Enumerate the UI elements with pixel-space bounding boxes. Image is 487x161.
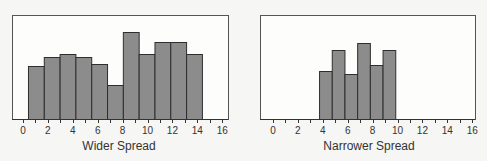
x-tick-label: 14 [192, 125, 204, 136]
x-tick-label: 0 [270, 125, 276, 136]
histogram-bar [123, 33, 139, 120]
x-tick-label: 14 [442, 125, 454, 136]
x-tick-label: 8 [370, 125, 376, 136]
histogram-bar [332, 51, 345, 120]
x-tick-label: 4 [320, 125, 326, 136]
x-tick-label: 8 [120, 125, 126, 136]
histogram-bar [171, 43, 187, 120]
narrower-spread-histogram: 0246810121416Narrower Spread [260, 16, 478, 154]
histogram-comparison-figure: 0246810121416Wider Spread 0246810121416N… [0, 0, 487, 161]
x-tick-label: 6 [95, 125, 101, 136]
x-tick-label: 2 [295, 125, 301, 136]
x-tick-label: 10 [392, 125, 404, 136]
x-axis-label: Wider Spread [82, 139, 155, 153]
histogram-bar [187, 55, 203, 120]
histogram-bar [358, 44, 371, 120]
x-tick-label: 16 [217, 125, 229, 136]
histogram-bar [92, 65, 108, 120]
x-tick-label: 10 [142, 125, 154, 136]
histogram-bar [320, 72, 333, 120]
histogram-bar [383, 51, 396, 120]
histogram-bar [139, 55, 155, 120]
histogram-bar [155, 43, 171, 120]
histogram-bar [44, 58, 60, 120]
x-tick-label: 0 [20, 125, 26, 136]
histogram-bar [108, 86, 124, 120]
histogram-bar [345, 75, 358, 120]
x-tick-label: 12 [167, 125, 179, 136]
x-axis-label: Narrower Spread [323, 139, 414, 153]
x-tick-label: 2 [45, 125, 51, 136]
wider-spread-histogram: 0246810121416Wider Spread [12, 16, 229, 154]
x-tick-label: 12 [417, 125, 429, 136]
histogram-bar [60, 55, 76, 120]
x-tick-label: 6 [345, 125, 351, 136]
histogram-bar [76, 58, 92, 120]
x-tick-label: 16 [467, 125, 479, 136]
x-tick-label: 4 [70, 125, 76, 136]
histogram-bar [370, 66, 383, 120]
histogram-bar [28, 67, 44, 120]
